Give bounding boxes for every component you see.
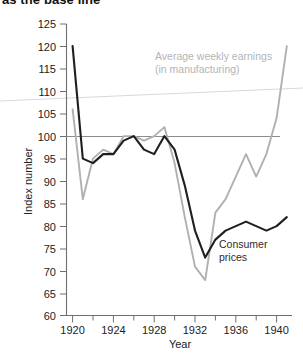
- y-tick-label-70: 70: [20, 267, 56, 278]
- x-tick-label-1920: 1920: [53, 325, 93, 336]
- x-tick-label-1924: 1924: [93, 325, 133, 336]
- y-axis-title: Index number: [22, 148, 34, 215]
- y-tick-label-115: 115: [20, 64, 56, 75]
- x-tick-label-1932: 1932: [175, 325, 215, 336]
- x-tick-marks: [73, 316, 277, 323]
- y-tick-label-100: 100: [20, 132, 56, 143]
- plot-area: 125 120 115 110 105 100 95 90 85 80 75 7…: [0, 0, 303, 354]
- annotation-consumer-prices: Consumer prices: [219, 238, 267, 263]
- y-tick-marks: [60, 24, 67, 316]
- chart-figure: as the base line: [0, 0, 303, 354]
- annotation-earnings-line1: Average weekly earnings: [155, 50, 272, 63]
- annotation-average-weekly-earnings: Average weekly earnings (in manufacturin…: [155, 50, 272, 75]
- series-consumer-prices: [73, 46, 287, 258]
- x-tick-label-1940: 1940: [257, 325, 297, 336]
- y-tick-label-105: 105: [20, 109, 56, 120]
- y-tick-label-60: 60: [20, 311, 56, 322]
- y-tick-label-80: 80: [20, 222, 56, 233]
- y-tick-label-75: 75: [20, 244, 56, 255]
- y-tick-label-120: 120: [20, 42, 56, 53]
- x-tick-label-1928: 1928: [134, 325, 174, 336]
- y-tick-label-125: 125: [20, 19, 56, 30]
- x-axis-title: Year: [120, 338, 240, 350]
- y-tick-label-65: 65: [20, 289, 56, 300]
- annotation-earnings-line2: (in manufacturing): [155, 63, 272, 76]
- y-tick-label-110: 110: [20, 87, 56, 98]
- annotation-consumer-line2: prices: [219, 251, 267, 264]
- x-tick-label-1936: 1936: [216, 325, 256, 336]
- annotation-consumer-line1: Consumer: [219, 238, 267, 251]
